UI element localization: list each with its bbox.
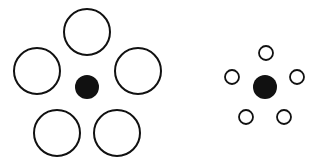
center-dot bbox=[75, 75, 99, 99]
surround-circle bbox=[64, 9, 110, 55]
surround-circle bbox=[225, 70, 239, 84]
surround-circle bbox=[290, 70, 304, 84]
surround-circle bbox=[34, 110, 80, 156]
large-surround-group bbox=[14, 9, 161, 156]
surround-circle bbox=[115, 48, 161, 94]
surround-circle bbox=[94, 110, 140, 156]
surround-circle bbox=[259, 46, 273, 60]
small-surround-group bbox=[225, 46, 304, 124]
surround-circle bbox=[239, 110, 253, 124]
ebbinghaus-figure bbox=[0, 0, 320, 166]
surround-circle bbox=[14, 48, 60, 94]
center-dot bbox=[253, 75, 277, 99]
surround-circle bbox=[277, 110, 291, 124]
